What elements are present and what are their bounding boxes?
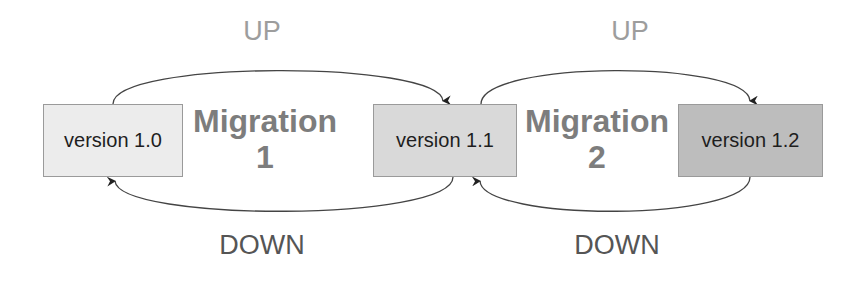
- down-label-2: DOWN: [574, 230, 659, 261]
- up-arrow-1: [113, 71, 443, 104]
- version-box-1-2: version 1.2: [678, 104, 823, 177]
- migration-title: Migration: [193, 103, 337, 139]
- version-label: version 1.2: [702, 129, 800, 152]
- up-label-1: UP: [243, 16, 281, 47]
- version-box-1-0: version 1.0: [43, 104, 183, 177]
- migration-number: 1: [193, 139, 337, 175]
- up-arrow-2: [481, 71, 750, 104]
- migration-1-label: Migration 1: [193, 103, 337, 175]
- version-box-1-1: version 1.1: [373, 104, 517, 177]
- up-label-2: UP: [611, 16, 649, 47]
- version-label: version 1.0: [64, 129, 162, 152]
- migration-number: 2: [525, 139, 669, 175]
- migration-2-label: Migration 2: [525, 103, 669, 175]
- version-label: version 1.1: [396, 129, 494, 152]
- down-arrow-1: [115, 177, 453, 211]
- down-label-1: DOWN: [219, 230, 304, 261]
- migration-title: Migration: [525, 103, 669, 139]
- down-arrow-2: [480, 177, 750, 211]
